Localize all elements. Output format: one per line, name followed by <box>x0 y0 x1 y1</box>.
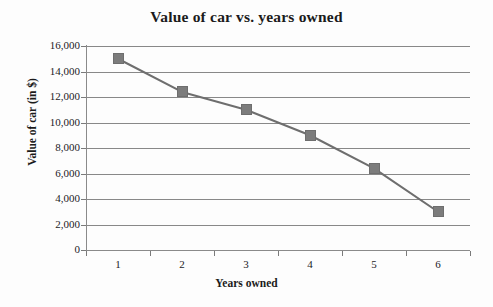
x-axis-tick <box>214 251 215 256</box>
x-axis-tick <box>470 251 471 256</box>
x-axis-tick <box>406 251 407 256</box>
gridline <box>86 225 470 226</box>
x-axis-tick-label: 3 <box>226 258 266 270</box>
x-axis-tick-label: 5 <box>354 258 394 270</box>
y-axis-tick <box>81 174 86 175</box>
y-axis-tick-label: 2,000 <box>24 219 80 230</box>
data-point-marker <box>177 86 188 97</box>
gridline <box>86 46 470 47</box>
x-axis-title: Years owned <box>0 277 493 289</box>
y-axis-tick <box>81 199 86 200</box>
x-axis-tick-label: 1 <box>98 258 138 270</box>
gridline <box>86 199 470 200</box>
gridline <box>86 97 470 98</box>
data-point-marker <box>241 104 252 115</box>
y-axis-tick-label: 4,000 <box>24 193 80 204</box>
y-axis-tick-label: 8,000 <box>24 142 80 153</box>
y-axis-spine <box>86 45 87 251</box>
x-axis-tick <box>342 251 343 256</box>
y-axis-tick <box>81 97 86 98</box>
y-axis-tick <box>81 46 86 47</box>
gridline <box>86 174 470 175</box>
gridline <box>86 123 470 124</box>
data-point-marker <box>305 130 316 141</box>
data-point-marker <box>113 53 124 64</box>
y-axis-tick-label: 6,000 <box>24 168 80 179</box>
x-axis-tick <box>150 251 151 256</box>
y-axis-tick-label: 0 <box>24 244 80 255</box>
y-axis-tick <box>81 225 86 226</box>
y-axis-tick-label: 16,000 <box>24 40 80 51</box>
data-point-marker <box>369 163 380 174</box>
x-axis-tick <box>278 251 279 256</box>
x-axis-tick-label: 4 <box>290 258 330 270</box>
x-axis-tick <box>86 251 87 256</box>
data-point-marker <box>433 206 444 217</box>
y-axis-tick-label: 12,000 <box>24 91 80 102</box>
chart-figure: Value of car vs. years owned Value of ca… <box>0 0 493 307</box>
y-axis-tick <box>81 123 86 124</box>
y-axis-tick-labels: 02,0004,0006,0008,00010,00012,00014,0001… <box>18 0 80 307</box>
plot-area <box>86 46 470 250</box>
x-axis-tick-label: 6 <box>418 258 458 270</box>
y-axis-tick <box>81 148 86 149</box>
y-axis-tick-label: 10,000 <box>24 117 80 128</box>
y-axis-tick-label: 14,000 <box>24 66 80 77</box>
gridline <box>86 148 470 149</box>
gridline <box>86 72 470 73</box>
x-axis-tick-label: 2 <box>162 258 202 270</box>
y-axis-tick <box>81 72 86 73</box>
